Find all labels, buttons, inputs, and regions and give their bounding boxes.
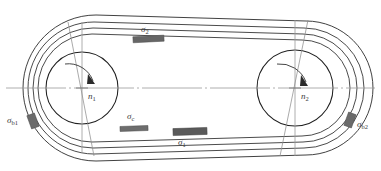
label-sigma-b2: σb2 [357,120,368,129]
rotation-arrow-n2 [277,64,308,86]
sigma-1-subscript: 1 [182,141,185,148]
sigma-c-subscript: c [131,115,134,122]
stress-block-sigma-b2 [344,112,356,128]
diagram-canvas [0,0,381,171]
n2-symbol: n [301,91,306,101]
n2-subscript: 2 [306,95,309,102]
label-sigma-1: σ1 [178,138,186,147]
stress-block-sigma-1 [173,127,207,135]
label-sigma-2: σ2 [141,25,149,34]
label-n2: n2 [301,92,309,101]
label-sigma-c: σc [127,112,134,121]
stress-block-sigma-b1 [27,113,39,129]
pulley-1-tangent-line [68,22,94,156]
belt-drive-diagram: σb1 σ2 σc σ1 σb2 n1 n2 [0,0,381,171]
label-sigma-b1: σb1 [7,116,18,125]
stress-block-sigma-c [120,126,148,132]
n1-subscript: 1 [93,95,96,102]
n1-symbol: n [88,91,93,101]
sigma-b2-subscript: b2 [361,123,368,130]
sigma-b1-subscript: b1 [11,119,18,126]
stress-block-sigma-2 [133,35,164,43]
sigma-2-subscript: 2 [145,28,148,35]
label-n1: n1 [88,92,96,101]
rotation-arrow-n1 [65,64,95,84]
